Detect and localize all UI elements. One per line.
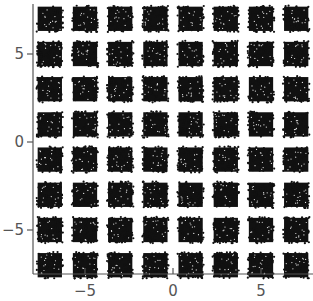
y-axis-ticks: −505 bbox=[2, 45, 33, 239]
x-tick-label: 5 bbox=[256, 282, 266, 300]
y-tick-label: −5 bbox=[2, 221, 24, 239]
y-tick-label: 0 bbox=[14, 133, 24, 151]
x-tick-label: 0 bbox=[168, 282, 178, 300]
x-tick-label: −5 bbox=[74, 282, 96, 300]
y-tick-label: 5 bbox=[14, 45, 24, 63]
scatter-chart: −505 −505 bbox=[0, 0, 313, 301]
scatter-points bbox=[36, 5, 311, 280]
